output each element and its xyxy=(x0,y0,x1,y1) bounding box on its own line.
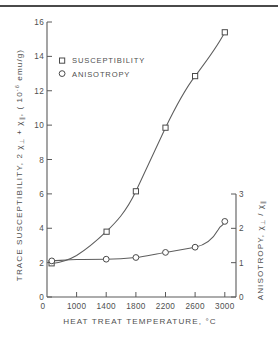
right-tick-label-1: 1 xyxy=(239,259,244,268)
right-tick-label-0: 0 xyxy=(239,293,244,302)
left-tick-label-12: 12 xyxy=(34,87,44,96)
right-y-axis: 0 1 2 3 xyxy=(231,190,244,302)
legend-marker-circle xyxy=(59,71,65,77)
x-origin-label: 0 xyxy=(41,302,46,311)
left-axis-title-group: TRACE SUSCEPTIBILITY, 2 χ⊥ + χ∥, ( 10-6 … xyxy=(14,49,26,281)
susceptibility-point-1800 xyxy=(133,189,138,194)
legend-label-susceptibility: SUSCEPTIBILITY xyxy=(72,56,145,65)
x-tick-label-3000: 3000 xyxy=(215,302,235,311)
x-tick-label-2600: 2600 xyxy=(185,302,205,311)
anisotropy-point-3000 xyxy=(222,219,228,225)
left-axis-title-sup: -6 xyxy=(14,84,20,91)
x-tick-label-1400: 1400 xyxy=(96,302,116,311)
left-tick-label-2: 2 xyxy=(39,259,44,268)
figure-container: 0 2 4 6 8 10 12 14 16 0 1000 1400 1800 2… xyxy=(0,0,278,339)
left-tick-label-8: 8 xyxy=(39,156,44,165)
susceptibility-point-1400 xyxy=(104,229,109,234)
anisotropy-point-2600 xyxy=(192,244,198,250)
svg-text:TRACE SUSCEPTIBILITY, 2 χ⊥ + χ: TRACE SUSCEPTIBILITY, 2 χ⊥ + χ∥, ( 10-6 … xyxy=(14,49,26,281)
left-axis-title-c: , ( 10 xyxy=(15,91,24,116)
left-tick-label-0: 0 xyxy=(39,293,44,302)
right-axis-title-b: / χ xyxy=(256,204,265,219)
right-axis-title-sub2: ∥ xyxy=(260,200,267,204)
right-axis-title-group: ANISOTROPY, χ⊥ / χ∥ xyxy=(256,200,267,301)
left-tick-label-14: 14 xyxy=(34,52,44,61)
right-tick-label-3: 3 xyxy=(239,190,244,199)
left-axis-title-a: TRACE SUSCEPTIBILITY, 2 χ xyxy=(15,144,24,281)
anisotropy-point-2200 xyxy=(163,250,169,256)
susceptibility-point-2600 xyxy=(193,74,198,79)
series-anisotropy xyxy=(49,219,228,264)
right-tick-label-2: 2 xyxy=(239,224,244,233)
anisotropy-point-1800 xyxy=(133,255,139,261)
susceptibility-line xyxy=(52,32,225,263)
susceptibility-point-3000 xyxy=(222,30,227,35)
svg-text:ANISOTROPY, χ⊥ / χ∥: ANISOTROPY, χ⊥ / χ∥ xyxy=(256,200,267,301)
left-tick-label-4: 4 xyxy=(39,224,44,233)
left-axis-title-d: emu/g) xyxy=(15,49,24,84)
chart-plot: 0 2 4 6 8 10 12 14 16 0 1000 1400 1800 2… xyxy=(0,0,278,339)
x-tick-label-1800: 1800 xyxy=(126,302,146,311)
legend-marker-square xyxy=(60,58,65,63)
right-axis-title-a: ANISOTROPY, χ xyxy=(256,225,265,300)
left-tick-label-16: 16 xyxy=(34,18,44,27)
x-axis-title: HEAT TREAT TEMPERATURE, °C xyxy=(63,317,217,326)
x-tick-label-2200: 2200 xyxy=(156,302,176,311)
anisotropy-point-1400 xyxy=(103,256,109,262)
left-tick-label-10: 10 xyxy=(34,121,44,130)
left-tick-label-6: 6 xyxy=(39,190,44,199)
anisotropy-point-800 xyxy=(49,258,55,264)
x-axis: 0 1000 1400 1800 2200 2600 3000 HEAT TRE… xyxy=(41,292,236,326)
left-axis-title-b: + χ xyxy=(15,120,24,138)
legend: SUSCEPTIBILITY ANISOTROPY xyxy=(59,56,145,78)
susceptibility-point-2200 xyxy=(163,125,168,130)
legend-label-anisotropy: ANISOTROPY xyxy=(72,70,130,79)
x-tick-label-1000: 1000 xyxy=(67,302,87,311)
